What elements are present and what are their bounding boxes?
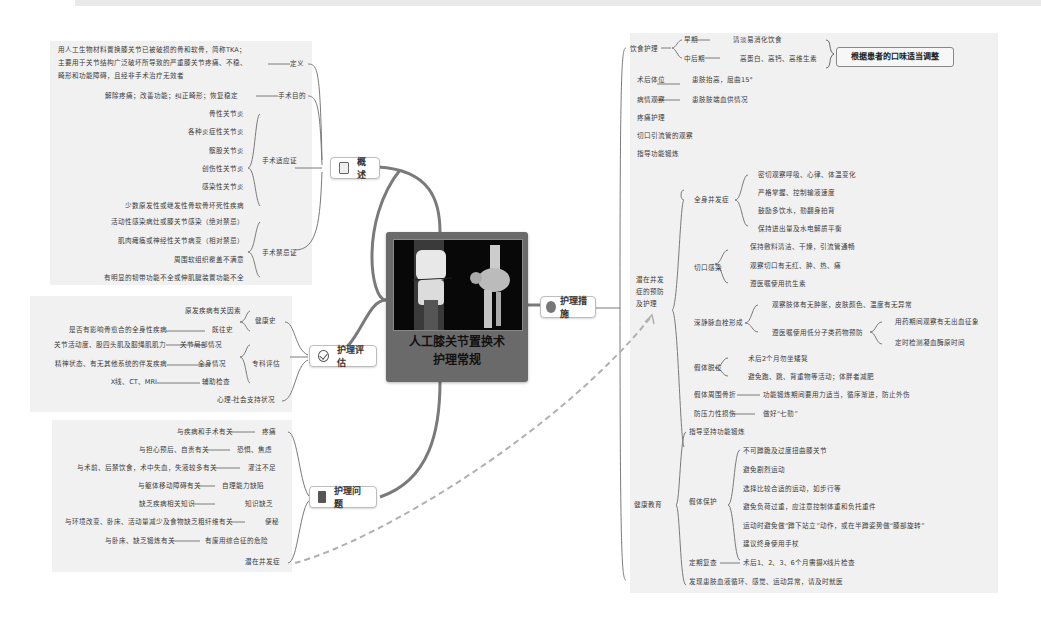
diet-early-text: 清淡易消化饮食 <box>733 36 782 45</box>
systemic-item: 鼓励多饮水，勤翻身拍背 <box>758 207 835 216</box>
contraindication-item: 活动性感染病灶或膝关节感染（绝对禁忌） <box>111 218 244 227</box>
dvt-subitem: 定时检测凝血酶原时间 <box>895 339 965 348</box>
systemic-label: 全身并发症 <box>694 196 729 205</box>
review-text: 术后1、2、3、6个月需摄X线片检查 <box>743 559 855 568</box>
branch-problems-label: 护理问题 <box>334 484 368 510</box>
problem-cause: 与术前、后禁饮食，术中失血，失液较多有关 <box>77 464 217 473</box>
observation-label: 病情观察 <box>637 96 665 105</box>
branch-overview[interactable]: 概述 <box>330 157 380 179</box>
fracture-text: 功能锻炼期间要用力适当，循序渐进，防止外伤 <box>763 391 910 400</box>
position-label: 术后体位 <box>637 76 665 85</box>
definition-line-2: 主要用于关节结构广泛破坏所导致的严重膝关节疼痛、不稳、 <box>58 59 247 68</box>
exercise-guidance: 指导功能锻炼 <box>637 150 679 159</box>
problems-panel <box>52 420 292 572</box>
branch-problems[interactable]: 护理问题 <box>309 486 377 508</box>
notepad-icon <box>318 491 326 503</box>
indication-item: 髌股关节炎 <box>209 147 244 156</box>
branch-assessment[interactable]: 护理评估 <box>309 345 377 367</box>
education-notice: 发现患肢血液循环、感觉、运动异常，请及时就医 <box>689 578 843 587</box>
central-title-line-1: 人工膝关节置换术 <box>386 333 528 351</box>
central-title-line-2: 护理常规 <box>386 351 528 369</box>
problem-label: 自理能力缺陷 <box>222 482 264 491</box>
pressure-label: 防压力性损伤 <box>694 410 736 419</box>
dislocation-item: 术后2个月勿坐矮凳 <box>748 355 808 364</box>
problem-cause: 与担心预后、自责有关 <box>139 446 209 455</box>
indication-item: 少数原发性或继发性骨软骨坏死性疾病 <box>125 202 244 211</box>
health-history-item: 是否有影响骨愈合的全身性疾病 <box>69 326 167 335</box>
indication-item: 创伤性关节炎 <box>202 165 244 174</box>
review-label: 定期复查 <box>689 559 717 568</box>
indication-item: 骨性关节炎 <box>209 110 244 119</box>
definition-line-1: 用人工生物材料置换膝关节已被破损的骨和软骨，简称TKA； <box>58 46 246 55</box>
diet-early-label: 早期 <box>684 36 698 45</box>
health-history-label: 健康史 <box>255 317 276 326</box>
protection-item: 建议终身使用手杖 <box>743 540 799 549</box>
observation-text: 患肢肢端血供情况 <box>692 96 748 105</box>
contraindication-item: 肌肉瘫痪或神经性关节病变（相对禁忌） <box>118 237 244 246</box>
check-circle-icon <box>318 350 329 362</box>
definition-line-3: 畸形和功能障碍，且经非手术治疗无效者 <box>58 72 184 81</box>
dvt-item: 观察肢体有无肿胀，皮肤颜色、温度有无异常 <box>772 301 912 310</box>
dvt-subitem: 用药期间观察有无出血征象 <box>895 318 979 327</box>
drain-observation: 切口引流管的观察 <box>637 132 693 141</box>
specialty-item: 关节局部情况 <box>180 341 222 350</box>
problem-cause: 与疾病和手术有关 <box>177 428 233 437</box>
purpose-text: 解除疼痛；改善功能；纠正畸形；恢复稳定 <box>105 92 238 101</box>
problem-label: 知识缺乏 <box>245 500 273 509</box>
health-history-item: 原发疾病有关因素 <box>185 307 241 316</box>
problem-label: 恐惧、焦虑 <box>237 446 272 455</box>
fracture-label: 假体周围骨折 <box>694 391 736 400</box>
psycho-social: 心理-社会支持状况 <box>217 396 275 405</box>
branch-measures[interactable]: 护理措施 <box>540 296 596 318</box>
past-history-label: 既往史 <box>212 326 233 335</box>
specialty-detail: 关节活动度、股四头肌及腘绳肌肌力 <box>54 341 166 350</box>
specialty-label: 专科评估 <box>252 360 280 369</box>
dislocation-label: 假体脱位 <box>694 364 722 373</box>
problem-cause: 缺乏疾病相关知识 <box>139 500 195 509</box>
pressure-text: 做好“七勤” <box>763 410 798 419</box>
protection-item: 选择比较合适的运动，如步行等 <box>743 485 841 494</box>
contraindication-item: 有明显的韧带功能不全或伸肌腱装置功能不全 <box>104 274 244 283</box>
indications-label: 手术适应证 <box>262 157 297 166</box>
problem-cause: 与卧床、缺乏锻炼有关 <box>105 537 175 546</box>
incision-item: 观察切口有无红、肿、热、痛 <box>750 262 841 271</box>
assessment-panel <box>30 296 292 412</box>
complications-label-1: 潜在并发 <box>636 276 664 285</box>
problem-cause: 与躯体移动障碍有关 <box>138 482 201 491</box>
document-icon <box>339 162 349 174</box>
definition-label: 定义 <box>290 60 304 69</box>
protection-item: 避免负荷过重，应注意控制体重和负托重件 <box>743 503 876 512</box>
diet-callout: 根据患者的口味适当调整 <box>836 47 954 67</box>
systemic-item: 密切观察呼吸、心律、体温变化 <box>758 171 856 180</box>
central-topic-title: 人工膝关节置换术 护理常规 <box>386 333 528 369</box>
branch-overview-label: 概述 <box>357 155 371 181</box>
branch-assessment-label: 护理评估 <box>337 343 368 369</box>
complications-label-3: 及护理 <box>636 300 657 309</box>
problem-cause: 与环境改变、卧床、活动量减少及食物缺乏粗纤维有关 <box>65 518 233 527</box>
problem-label: 灌注不足 <box>248 464 276 473</box>
specialty-detail: X线、CT、MRI <box>111 378 157 387</box>
systemic-item: 严格掌握、控制输液速度 <box>758 189 835 198</box>
diet-midlate-label: 中后期 <box>684 55 705 64</box>
position-text: 患肢抬高，屈曲15° <box>692 76 753 85</box>
education-label: 健康教育 <box>634 501 662 510</box>
dvt-item: 遵医嘱使用低分子类药物预防 <box>772 329 863 338</box>
specialty-item: 全身情况 <box>198 360 226 369</box>
smile-circle-icon <box>546 301 556 313</box>
problem-label: 潜在并发症 <box>245 558 280 567</box>
indication-item: 感染性关节炎 <box>202 183 244 192</box>
problem-label: 有废用综合征的危险 <box>205 537 268 546</box>
problem-label: 疼痛 <box>262 428 276 437</box>
specialty-item: 辅助检查 <box>202 378 230 387</box>
dislocation-item: 避免跑、跳、背重物等活动；体胖者减肥 <box>748 373 874 382</box>
knee-xray-image <box>393 239 523 331</box>
contraindications-label: 手术禁忌证 <box>262 249 297 258</box>
contraindication-item: 周围软组织覆盖不满意 <box>174 256 244 265</box>
diet-label: 饮食护理 <box>630 45 658 54</box>
branch-measures-label: 护理措施 <box>560 294 590 320</box>
incision-label: 切口感染 <box>694 264 722 273</box>
education-guide: 指导坚持功能锻炼 <box>689 428 745 437</box>
dvt-label: 深静脉血栓形成 <box>694 319 743 328</box>
central-topic[interactable]: 人工膝关节置换术 护理常规 <box>386 232 528 382</box>
incision-item: 保持敷料清洁、干燥，引流管通畅 <box>750 243 855 252</box>
